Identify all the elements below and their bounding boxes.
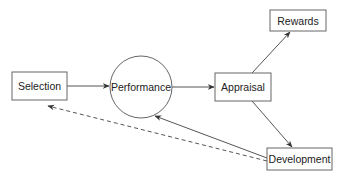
node-selection: Selection: [12, 72, 67, 100]
edge-appraisal-development: [252, 101, 292, 147]
node-performance-label: Performance: [111, 81, 171, 93]
node-rewards: Rewards: [270, 10, 326, 31]
node-performance: Performance: [110, 56, 172, 118]
node-rewards-label: Rewards: [277, 15, 318, 27]
node-selection-label: Selection: [18, 80, 61, 92]
node-appraisal: Appraisal: [215, 73, 271, 101]
hr-cycle-diagram: Selection Performance Appraisal Rewards …: [0, 0, 346, 181]
edge-development-selection-dashed: [48, 106, 267, 161]
node-development-label: Development: [269, 153, 331, 165]
node-appraisal-label: Appraisal: [221, 81, 265, 93]
node-development: Development: [267, 148, 332, 170]
edge-appraisal-rewards: [252, 32, 290, 73]
